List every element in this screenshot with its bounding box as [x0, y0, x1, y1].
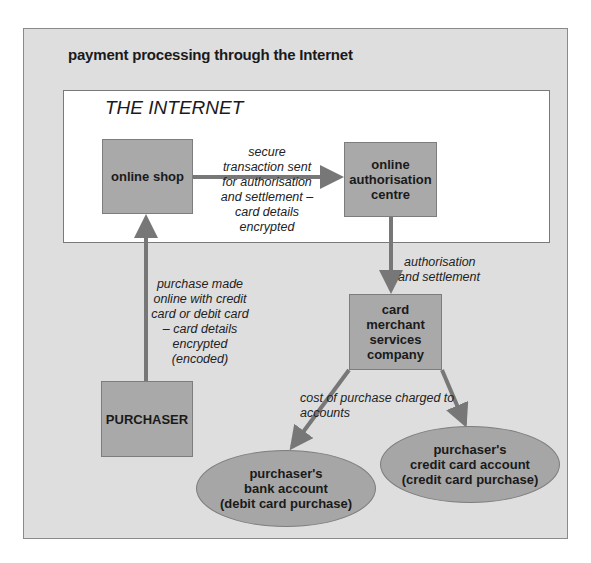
- edge-label-line: – card details: [150, 322, 250, 337]
- node-authorisation-centre: online authorisation centre: [344, 142, 437, 217]
- edge-label-purchaser-to-shop: purchase made online with credit card or…: [150, 277, 250, 367]
- node-label-line: centre: [349, 187, 431, 202]
- edge-label-line: card or debit card: [150, 307, 250, 322]
- node-bank-account: purchaser's bank account (debit card pur…: [196, 450, 376, 527]
- node-label-line: card: [366, 302, 425, 317]
- edge-label-line: authorisation: [398, 255, 498, 270]
- node-label-line: company: [366, 347, 425, 362]
- node-label-line: (debit card purchase): [220, 496, 352, 511]
- edge-label-line: (encoded): [150, 352, 250, 367]
- edge-label-line: online with credit: [150, 292, 250, 307]
- edge-label-shop-to-auth: secure transaction sent for authorisatio…: [212, 145, 322, 235]
- node-label-line: services: [366, 332, 425, 347]
- node-purchaser: PURCHASER: [101, 381, 193, 457]
- node-label-line: (credit card purchase): [402, 472, 539, 487]
- edge-label-line: and settlement: [398, 270, 498, 285]
- node-label-line: credit card account: [402, 457, 539, 472]
- edge-label-line: and settlement –: [212, 190, 322, 205]
- node-card-merchant-services: card merchant services company: [349, 294, 442, 370]
- node-online-shop: online shop: [102, 139, 193, 214]
- edge-label-line: purchase made: [150, 277, 250, 292]
- edge-label-line: card details: [212, 205, 322, 220]
- edge-label-line: encrypted: [212, 220, 322, 235]
- edge-label-line: for authorisation: [212, 175, 322, 190]
- node-label-line: merchant: [366, 317, 425, 332]
- node-label-line: bank account: [220, 481, 352, 496]
- edge-label-auth-to-merchant: authorisation and settlement: [398, 255, 498, 285]
- node-label-line: purchaser's: [402, 442, 539, 457]
- edge-label-merchant-to-accounts: cost of purchase charged to accounts: [300, 391, 500, 421]
- node-label-line: online: [349, 157, 431, 172]
- node-label: PURCHASER: [106, 412, 188, 427]
- node-credit-card-account: purchaser's credit card account (credit …: [380, 426, 560, 503]
- node-label: online shop: [111, 169, 184, 184]
- edge-label-line: transaction sent: [212, 160, 322, 175]
- node-label-line: authorisation: [349, 172, 431, 187]
- edge-label-line: secure: [212, 145, 322, 160]
- edge-label-line: encrypted: [150, 337, 250, 352]
- node-label-line: purchaser's: [220, 466, 352, 481]
